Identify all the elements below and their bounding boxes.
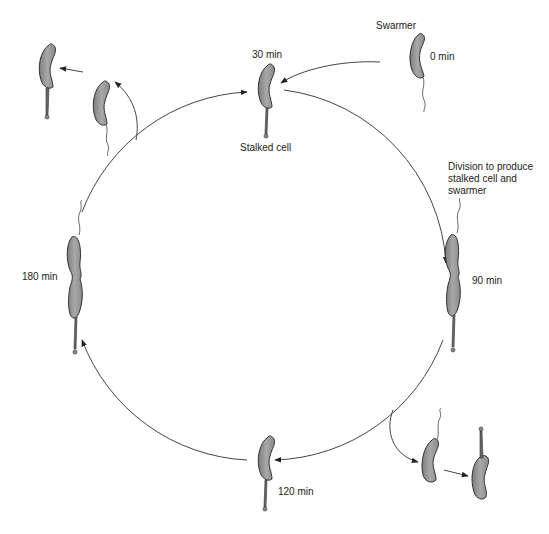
time-label-30min: 30 min	[252, 49, 282, 61]
dividing-cell-90min	[445, 198, 460, 352]
stalked-cell-120min	[258, 436, 274, 511]
stalked-cell-30min	[258, 64, 274, 138]
arc-30-to-90	[284, 90, 446, 263]
swarmer-label: Swarmer	[376, 20, 416, 32]
time-label-120min: 120 min	[278, 486, 314, 498]
time-label-90min: 90 min	[472, 275, 502, 287]
arrow-swarmer-to-stalked-top-left	[60, 68, 83, 72]
released-swarmer-bottom-right	[422, 408, 441, 482]
arrow-swarmer-to-stalked-bottom-right	[444, 470, 468, 476]
new-stalked-cell-top-left	[39, 44, 55, 119]
arc-90-to-120	[275, 340, 443, 460]
arc-180-to-30	[82, 92, 247, 212]
dividing-cell-180min	[67, 200, 82, 354]
new-stalked-cell-bottom-right	[472, 427, 489, 499]
arrow-branch-top-left	[115, 82, 137, 140]
time-label-0min: 0 min	[430, 51, 454, 63]
arrow-swarmer-to-stalked	[281, 62, 380, 83]
time-label-180min: 180 min	[22, 271, 58, 283]
swarmer-cell-0min	[410, 34, 425, 112]
arc-120-to-180	[82, 340, 247, 460]
released-swarmer-top-left	[93, 81, 109, 156]
division-note-label: Division to produce stalked cell and swa…	[448, 161, 548, 197]
stalked-cell-label: Stalked cell	[240, 142, 291, 154]
arrow-branch-bottom-right	[390, 410, 418, 462]
cell-cycle-diagram	[0, 0, 549, 534]
